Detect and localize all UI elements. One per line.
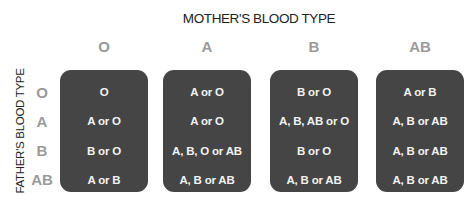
cell-father-ab: A or B bbox=[60, 173, 148, 187]
page-title: MOTHER'S BLOOD TYPE bbox=[0, 11, 474, 26]
row-header-a: A bbox=[30, 113, 54, 131]
column-header-a: A bbox=[163, 38, 251, 55]
cell-father-a: A or O bbox=[60, 114, 148, 128]
row-header-b: B bbox=[30, 142, 54, 160]
column-header-o: O bbox=[60, 38, 148, 55]
cell-father-o: A or B bbox=[376, 85, 464, 99]
cell-father-o: A or O bbox=[163, 85, 251, 99]
cell-father-o: B or O bbox=[270, 85, 358, 99]
cell-father-b: A, B or AB bbox=[376, 144, 464, 158]
cell-father-b: A, B, O or AB bbox=[163, 144, 251, 158]
cell-father-o: O bbox=[60, 85, 148, 99]
row-header-o: O bbox=[30, 84, 54, 102]
cell-father-b: B or O bbox=[60, 144, 148, 158]
cell-father-a: A, B, AB or O bbox=[270, 114, 358, 128]
cell-father-ab: A, B or AB bbox=[163, 173, 251, 187]
cell-father-ab: A, B or AB bbox=[376, 173, 464, 187]
cell-father-a: A, B or AB bbox=[376, 114, 464, 128]
mother-a-box: A or O A or O A, B, O or AB A, B or AB bbox=[163, 70, 251, 192]
mother-o-box: O A or O B or O A or B bbox=[60, 70, 148, 192]
column-header-ab: AB bbox=[376, 38, 464, 55]
cell-father-ab: A, B or AB bbox=[270, 173, 358, 187]
mother-b-box: B or O A, B, AB or O B or O A, B or AB bbox=[270, 70, 358, 192]
fathers-blood-type-label: FATHER'S BLOOD TYPE bbox=[14, 68, 26, 193]
cell-father-a: A or O bbox=[163, 114, 251, 128]
mother-ab-box: A or B A, B or AB A, B or AB A, B or AB bbox=[376, 70, 464, 192]
column-header-b: B bbox=[270, 38, 358, 55]
row-header-ab: AB bbox=[30, 171, 54, 189]
cell-father-b: B or O bbox=[270, 144, 358, 158]
